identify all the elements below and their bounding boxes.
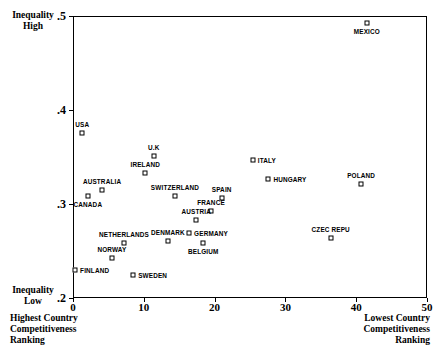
scatter-plot-figure: Inequality High Inequality Low Highest C… (0, 0, 438, 351)
x-axis-left-caption-line2: Competitiveness (10, 324, 78, 335)
data-point-label: USA (75, 121, 89, 128)
x-axis-tick-label: 10 (138, 301, 149, 313)
x-axis-tick-label: 30 (280, 301, 291, 313)
y-axis-tick (69, 110, 73, 111)
data-point-label: SPAIN (212, 186, 232, 193)
x-axis-tick-label: 40 (351, 301, 362, 313)
data-point-marker (85, 194, 90, 199)
data-point-label: U.K (148, 144, 159, 151)
data-point-label: BELGIUM (188, 248, 219, 255)
data-point-label: NORWAY (97, 246, 126, 253)
data-point-marker (80, 131, 85, 136)
data-point-label: ITALY (258, 156, 276, 163)
data-point-label: AUSTRIA (181, 208, 210, 215)
x-axis-tick-label: 50 (422, 301, 433, 313)
y-axis-tick-label: .2 (46, 291, 66, 306)
data-point-label: HUNGARY (273, 175, 306, 182)
data-point-label: FRANCE (197, 199, 225, 206)
data-point-label: IRELAND (130, 161, 159, 168)
data-point-label: CZEC REPU (312, 226, 350, 233)
x-axis-left-caption-line1: Highest Country (10, 313, 78, 324)
data-point-label: NETHERLANDS (99, 231, 149, 238)
data-point-marker (131, 272, 136, 277)
x-axis-tick-label: 0 (70, 301, 76, 313)
y-axis-tick (69, 16, 73, 17)
data-point-marker (364, 21, 369, 26)
x-axis-right-caption-line2: Competitiveness (364, 324, 431, 335)
data-point-marker (201, 241, 206, 246)
data-point-label: SWITZERLAND (151, 184, 199, 191)
x-axis-right-caption: Lowest Country Competitiveness Ranking (364, 313, 431, 346)
x-axis-right-caption-line1: Lowest Country (364, 313, 431, 324)
data-point-label: FINLAND (80, 266, 109, 273)
x-axis-left-caption-line3: Ranking (10, 335, 78, 346)
y-axis-tick-label: .3 (46, 197, 66, 212)
data-point-marker (250, 157, 255, 162)
x-axis-left-caption: Highest Country Competitiveness Ranking (10, 313, 78, 346)
data-point-marker (172, 194, 177, 199)
data-point-marker (165, 239, 170, 244)
data-point-marker (109, 255, 114, 260)
y-axis-tick-label: .4 (46, 103, 66, 118)
data-point-label: DENMARK (151, 229, 185, 236)
data-point-label: SWEDEN (138, 271, 167, 278)
data-point-marker (121, 241, 126, 246)
y-axis-tick (69, 298, 73, 299)
data-point-marker (187, 230, 192, 235)
x-axis-right-caption-line3: Ranking (364, 335, 431, 346)
y-axis-tick (69, 204, 73, 205)
data-point-label: MEXICO (354, 28, 380, 35)
data-point-marker (100, 188, 105, 193)
data-point-marker (359, 181, 364, 186)
data-point-marker (73, 267, 78, 272)
data-point-marker (143, 170, 148, 175)
x-axis-tick-label: 20 (209, 301, 220, 313)
data-point-label: POLAND (347, 172, 375, 179)
data-point-label: AUSTRALIA (83, 178, 121, 185)
data-point-marker (328, 236, 333, 241)
data-point-marker (266, 176, 271, 181)
data-point-marker (151, 154, 156, 159)
data-point-label: GERMANY (194, 229, 228, 236)
data-point-label: CANADA (74, 201, 103, 208)
y-axis-tick-label: .5 (46, 9, 66, 24)
data-point-marker (194, 217, 199, 222)
